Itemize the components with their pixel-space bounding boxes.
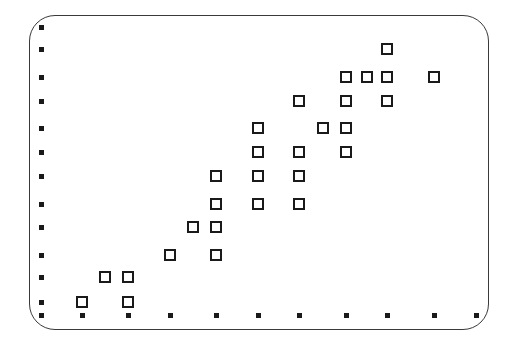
y-tick-mark: [39, 253, 44, 258]
data-point-square-marker: [293, 146, 305, 158]
data-point-square-marker: [210, 170, 222, 182]
data-point-square-marker: [122, 296, 134, 308]
data-point-square-marker: [252, 146, 264, 158]
data-point-square-marker: [340, 122, 352, 134]
x-tick-mark: [474, 313, 479, 318]
data-point-square-marker: [381, 43, 393, 55]
y-tick-mark: [39, 225, 44, 230]
x-tick-mark: [256, 313, 261, 318]
data-point-square-marker: [210, 249, 222, 261]
data-point-square-marker: [340, 146, 352, 158]
x-tick-mark: [385, 313, 390, 318]
data-point-square-marker: [99, 271, 111, 283]
x-tick-mark: [80, 313, 85, 318]
y-tick-mark: [39, 150, 44, 155]
data-point-square-marker: [381, 95, 393, 107]
data-point-square-marker: [252, 170, 264, 182]
data-point-square-marker: [340, 71, 352, 83]
data-point-square-marker: [293, 95, 305, 107]
x-tick-mark: [344, 313, 349, 318]
data-point-square-marker: [252, 198, 264, 210]
data-point-square-marker: [122, 271, 134, 283]
x-tick-mark: [126, 313, 131, 318]
data-point-square-marker: [210, 198, 222, 210]
data-point-square-marker: [187, 221, 199, 233]
y-tick-mark: [39, 202, 44, 207]
data-point-square-marker: [76, 296, 88, 308]
data-point-square-marker: [361, 71, 373, 83]
data-point-square-marker: [210, 221, 222, 233]
y-tick-mark: [39, 126, 44, 131]
x-tick-mark: [214, 313, 219, 318]
data-point-square-marker: [340, 95, 352, 107]
data-point-square-marker: [381, 71, 393, 83]
y-tick-mark: [39, 99, 44, 104]
y-tick-mark: [39, 313, 44, 318]
data-point-square-marker: [252, 122, 264, 134]
y-tick-mark: [39, 75, 44, 80]
x-tick-mark: [168, 313, 173, 318]
x-tick-mark: [297, 313, 302, 318]
data-point-square-marker: [164, 249, 176, 261]
data-point-square-marker: [293, 198, 305, 210]
data-point-square-marker: [428, 71, 440, 83]
y-tick-mark: [39, 25, 44, 30]
scatter-chart: [0, 0, 519, 350]
x-tick-mark: [432, 313, 437, 318]
y-tick-mark: [39, 275, 44, 280]
data-point-square-marker: [317, 122, 329, 134]
y-tick-mark: [39, 174, 44, 179]
data-point-square-marker: [293, 170, 305, 182]
y-tick-mark: [39, 47, 44, 52]
y-tick-mark: [39, 300, 44, 305]
